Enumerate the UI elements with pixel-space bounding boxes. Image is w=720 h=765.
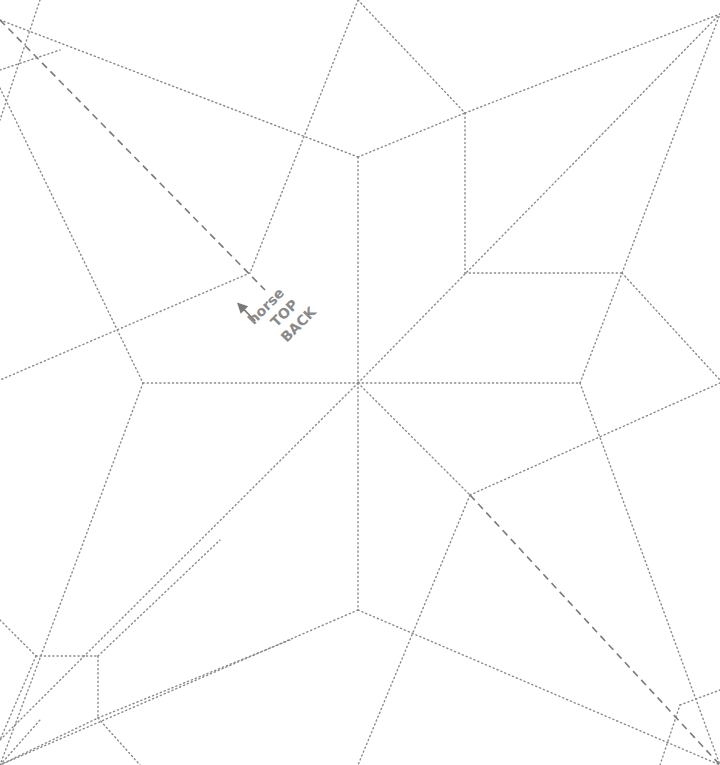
valley-crease bbox=[0, 0, 40, 120]
orientation-annotation: horse TOP BACK bbox=[235, 268, 320, 353]
valley-crease bbox=[580, 273, 622, 383]
valley-crease bbox=[358, 383, 470, 495]
valley-crease bbox=[0, 656, 36, 740]
valley-crease bbox=[660, 705, 680, 765]
valley-crease bbox=[622, 14, 720, 273]
valley-crease bbox=[358, 14, 720, 383]
valley-crease bbox=[0, 273, 250, 380]
valley-crease bbox=[465, 14, 720, 113]
valley-creases bbox=[0, 0, 720, 765]
mountain-crease bbox=[470, 495, 720, 765]
valley-crease bbox=[0, 620, 36, 656]
valley-crease bbox=[358, 113, 465, 157]
valley-crease bbox=[0, 610, 358, 765]
valley-crease bbox=[250, 0, 358, 273]
valley-crease bbox=[98, 640, 290, 718]
valley-crease bbox=[0, 88, 143, 383]
mountain-creases bbox=[0, 20, 720, 765]
valley-crease bbox=[0, 50, 60, 70]
valley-crease bbox=[358, 495, 470, 765]
crease-pattern: horse TOP BACK bbox=[0, 0, 720, 765]
valley-crease bbox=[622, 273, 720, 380]
valley-crease bbox=[358, 0, 465, 113]
valley-crease bbox=[680, 690, 720, 705]
valley-crease bbox=[98, 540, 220, 656]
valley-crease bbox=[98, 718, 140, 765]
valley-crease bbox=[470, 383, 720, 495]
valley-crease bbox=[0, 383, 358, 740]
mountain-crease bbox=[0, 20, 265, 290]
valley-crease bbox=[358, 610, 720, 765]
valley-crease bbox=[580, 383, 720, 765]
